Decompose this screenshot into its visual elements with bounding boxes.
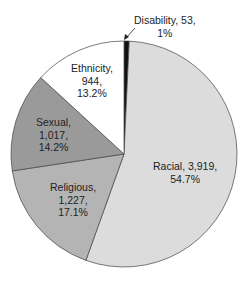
label-racial: Racial, 3,919, 54.7%	[153, 160, 217, 185]
label-ethnicity: Ethnicity, 944, 13.2%	[71, 62, 113, 100]
arrow-head-icon	[124, 34, 129, 40]
label-religious: Religious, 1,227, 17.1%	[50, 181, 96, 219]
label-disability: Disability, 53, 1%	[134, 14, 196, 39]
pie-slices	[11, 41, 237, 267]
label-sexual: Sexual, 1,017, 14.2%	[36, 116, 71, 154]
